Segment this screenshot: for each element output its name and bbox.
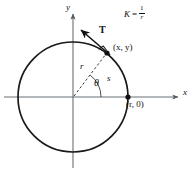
curvature-figure: y x T (x, y) (r, 0) r s θ K = 1 r <box>0 0 195 174</box>
x-axis-label: x <box>183 88 187 97</box>
point-on-circle-label: (x, y) <box>113 43 133 52</box>
arc-length-label: s <box>107 74 111 83</box>
point-marker-xy <box>104 50 109 55</box>
radius-dashed-line <box>74 54 106 96</box>
curvature-symbol: K <box>124 10 130 19</box>
angle-theta-label: θ <box>94 78 99 88</box>
radius-label: r <box>80 62 84 71</box>
fraction-denominator: r <box>139 14 144 22</box>
tangent-vector-label: T <box>99 25 106 35</box>
y-axis-label: y <box>66 3 70 12</box>
equals-sign: = <box>132 10 137 19</box>
point-x-axis-label: (r, 0) <box>126 100 144 109</box>
curvature-formula: K = 1 r <box>124 6 145 22</box>
fraction-numerator: 1 <box>139 5 145 13</box>
fraction-one-over-r: 1 r <box>139 5 145 21</box>
